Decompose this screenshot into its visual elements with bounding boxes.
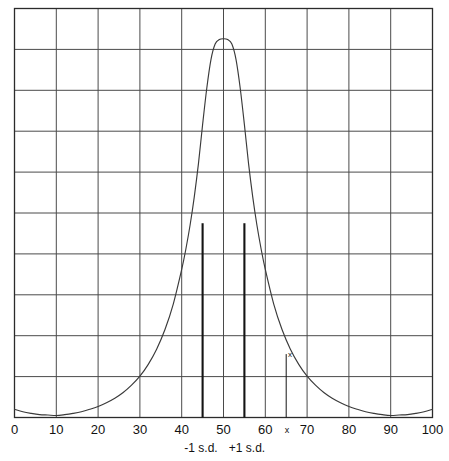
x-axis-tick-label: 10 (49, 422, 63, 437)
x-axis-tick-label: 60 (258, 422, 272, 437)
x-axis-tick-label: 100 (422, 422, 444, 437)
x-axis-tick-label: 0 (11, 422, 18, 437)
x-axis-tick-label: 50 (216, 422, 230, 437)
minus-one-sd-label: -1 s.d. (184, 441, 217, 455)
x-axis-tick-label: 70 (300, 422, 314, 437)
chart-background (0, 0, 449, 461)
x-point-marker-label: x (288, 350, 292, 359)
distribution-chart: x 0102030405060708090100 x -1 s.d. +1 s.… (0, 0, 449, 461)
x-axis-tick-label: 40 (174, 422, 188, 437)
x-axis-tick-label: 90 (383, 422, 397, 437)
x-axis-marker-label: x (285, 425, 290, 435)
plus-one-sd-label: +1 s.d. (229, 441, 265, 455)
x-axis-tick-label: 30 (133, 422, 147, 437)
x-axis-tick-label: 20 (91, 422, 105, 437)
x-axis-tick-label: 80 (342, 422, 356, 437)
